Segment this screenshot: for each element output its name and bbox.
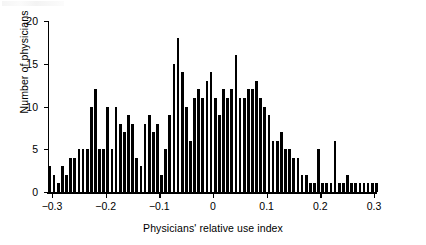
histogram-bar [272,141,275,192]
histogram-bar [177,38,180,192]
x-tick-label: 0 [193,200,233,212]
histogram-bar [201,98,204,192]
x-tick-mark [52,193,53,198]
histogram-bar [86,149,89,192]
histogram-bar [49,166,52,192]
x-tick-mark [159,193,160,198]
histogram-bar [119,124,122,192]
histogram-bar [334,141,337,192]
histogram-bar [135,158,138,192]
histogram-bar [255,81,258,192]
histogram-bar [185,107,188,193]
histogram-bar [189,141,192,192]
histogram-bar [259,98,262,192]
histogram-bar [210,72,213,192]
histogram-bar [235,55,238,192]
histogram-bar [317,149,320,192]
histogram-bar [94,89,97,192]
x-tick-mark [106,193,107,198]
histogram-bar [354,183,357,192]
scan-artifact [2,1,64,6]
histogram-bar [330,183,333,192]
x-tick-label: −0.1 [139,200,179,212]
histogram-bar [61,166,64,192]
histogram-bar [148,115,151,192]
x-tick-label: 0.2 [300,200,340,212]
histogram-bar [115,107,118,193]
x-tick-label: 0.3 [354,200,394,212]
histogram-bar [164,149,167,192]
histogram-bar [73,158,76,192]
y-tick-label: 0 [12,187,38,197]
y-tick-label: 15 [12,59,38,69]
x-tick-mark [374,193,375,198]
y-tick-label: 20 [12,16,38,26]
histogram-bar [65,175,68,192]
histogram-bar [371,183,374,192]
histogram-bar [239,98,242,192]
histogram-bar [243,98,246,192]
histogram-bar [346,175,349,192]
histogram-bar [251,89,254,192]
histogram-bar [123,132,126,192]
histogram-bar [218,115,221,192]
x-axis-line [47,192,377,194]
histogram-bar [375,183,378,192]
histogram-bar [276,141,279,192]
x-tick-label: −0.2 [86,200,126,212]
histogram-figure: Number of physicians 05101520 −0.3−0.2−0… [0,0,426,245]
histogram-bar [131,124,134,192]
histogram-bar [53,175,56,192]
histogram-bar [230,89,233,192]
histogram-bar [268,115,271,192]
histogram-bar [206,81,209,192]
histogram-bar [342,183,345,192]
x-tick-mark [213,193,214,198]
histogram-bar [222,89,225,192]
y-tick-mark [44,192,48,193]
x-tick-label: −0.3 [32,200,72,212]
histogram-bar [338,183,341,192]
histogram-bar [367,183,370,192]
histogram-bar [106,107,109,193]
histogram-bar [226,98,229,192]
histogram-bar [69,158,72,192]
histogram-bar [168,115,171,192]
histogram-bar [284,149,287,192]
histogram-bar [111,149,114,192]
histogram-bar [181,72,184,192]
x-axis-label: Physicians' relative use index [48,222,378,234]
histogram-bar [127,115,130,192]
histogram-bar [280,132,283,192]
histogram-bar [350,183,353,192]
histogram-bars [48,21,378,192]
histogram-bar [292,158,295,192]
histogram-bar [82,149,85,192]
histogram-bar [297,158,300,192]
x-tick-mark [267,193,268,198]
histogram-bar [98,149,101,192]
histogram-bar [214,98,217,192]
x-tick-mark [320,193,321,198]
histogram-bar [144,124,147,192]
histogram-bar [363,183,366,192]
histogram-bar [140,166,143,192]
histogram-bar [247,89,250,192]
histogram-bar [301,175,304,192]
histogram-bar [321,183,324,192]
histogram-bar [160,175,163,192]
x-tick-label: 0.1 [247,200,287,212]
histogram-bar [263,107,266,193]
histogram-bar [325,183,328,192]
histogram-bar [102,149,105,192]
y-tick-label: 5 [12,144,38,154]
histogram-bar [156,124,159,192]
histogram-bar [288,149,291,192]
histogram-bar [359,183,362,192]
histogram-bar [90,107,93,193]
histogram-bar [197,89,200,192]
histogram-bar [313,183,316,192]
histogram-bar [305,175,308,192]
histogram-bar [57,183,60,192]
histogram-bar [309,183,312,192]
